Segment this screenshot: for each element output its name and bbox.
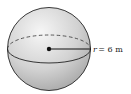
radius-label: r= 6 m <box>93 45 123 54</box>
center-point <box>47 47 51 51</box>
sphere-diagram: r= 6 m <box>0 0 131 94</box>
